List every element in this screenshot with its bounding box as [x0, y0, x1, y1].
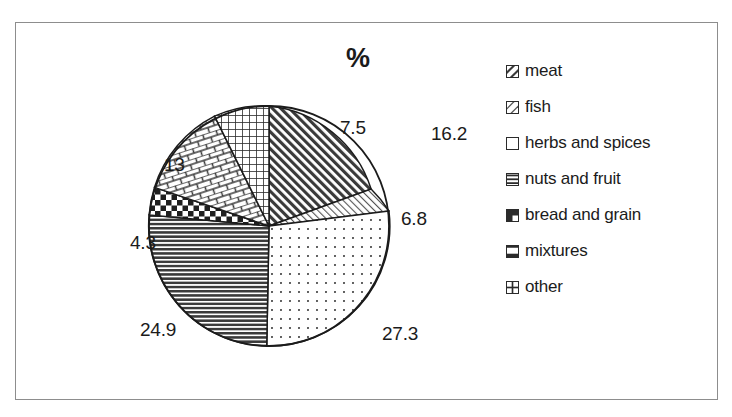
legend-item-mixtures[interactable]: mixtures — [506, 233, 716, 269]
legend-item-herbs-and-spices[interactable]: herbs and spices — [506, 125, 716, 161]
legend-item-bread-and-grain[interactable]: bread and grain — [506, 197, 716, 233]
diagonal-stripes-fine-swatch-icon — [506, 101, 519, 114]
pie-label-nuts-and-fruit: 24.9 — [140, 319, 176, 341]
legend-item-fish[interactable]: fish — [506, 89, 716, 125]
chart-frame: % — [15, 22, 718, 400]
pie-label-bread-and-grain: 4.3 — [130, 232, 156, 254]
pie-label-mixtures: 13 — [164, 154, 185, 176]
pie-label-meat: 16.2 — [431, 123, 467, 145]
pie-slice-herbs-and-spices — [267, 211, 390, 346]
legend-item-other[interactable]: other — [506, 269, 716, 305]
legend-label: meat — [525, 61, 562, 81]
legend-label: herbs and spices — [525, 133, 650, 153]
brick-weave-swatch-icon — [506, 245, 519, 258]
blank-swatch-icon — [506, 137, 519, 150]
pie-label-fish: 6.8 — [401, 208, 427, 230]
plot-area: % — [16, 23, 719, 401]
chart-title: % — [346, 43, 370, 74]
diagonal-stripes-bold-swatch-icon — [506, 65, 519, 78]
legend: meat fish — [506, 53, 716, 305]
pie-label-other: 7.5 — [340, 117, 366, 139]
horizontal-lines-swatch-icon — [506, 173, 519, 186]
legend-label: mixtures — [525, 241, 588, 261]
legend-item-meat[interactable]: meat — [506, 53, 716, 89]
checkerboard-swatch-icon — [506, 209, 519, 222]
legend-label: bread and grain — [525, 205, 641, 225]
legend-label: other — [525, 277, 563, 297]
pie-chart: 7.5 16.2 6.8 27.3 24.9 4.3 13 — [144, 101, 394, 351]
legend-label: fish — [525, 97, 551, 117]
legend-item-nuts-and-fruit[interactable]: nuts and fruit — [506, 161, 716, 197]
pie-label-herbs-and-spices: 27.3 — [382, 323, 418, 345]
legend-label: nuts and fruit — [525, 169, 620, 189]
grid-swatch-icon — [506, 281, 519, 294]
